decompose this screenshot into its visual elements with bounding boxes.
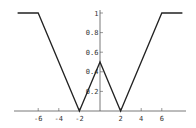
x-tick-label: 4 <box>139 115 143 123</box>
x-tick-label: -6 <box>34 115 42 123</box>
y-tick-label: 0.6 <box>86 49 99 57</box>
x-tick-label: 6 <box>160 115 164 123</box>
x-tick-label: -2 <box>75 115 83 123</box>
y-tick-label: 0.8 <box>86 29 99 37</box>
x-tick-label: 2 <box>118 115 122 123</box>
axes: -6-4-22460.20.40.60.81 <box>14 10 186 124</box>
x-tick-label: -4 <box>55 115 63 123</box>
line-chart: -6-4-22460.20.40.60.81 <box>0 0 196 128</box>
y-tick-label: 1 <box>94 10 98 18</box>
